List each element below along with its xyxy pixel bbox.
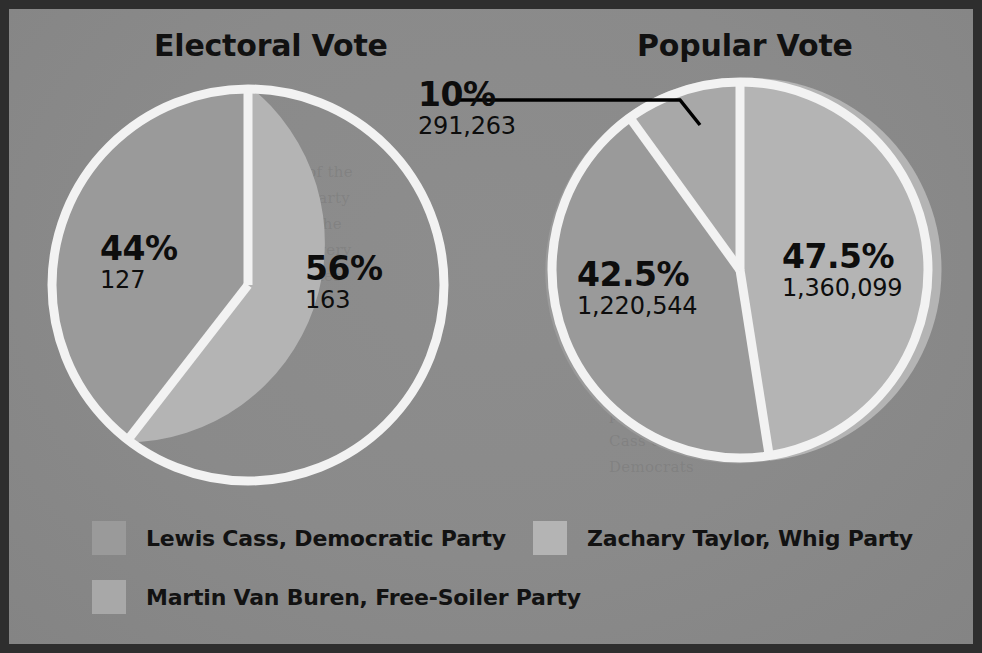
label-popular-taylor-percent: 47.5% (782, 240, 902, 274)
legend-swatch-taylor (533, 521, 567, 555)
label-popular-cass-count: 1,220,544 (577, 292, 697, 320)
legend-swatch-cass (92, 521, 126, 555)
label-popular-cass-percent: 42.5% (577, 258, 697, 292)
legend-item-vanburen[interactable]: Martin Van Buren, Free-Soiler Party (92, 580, 581, 614)
legend-label-vanburen: Martin Van Buren, Free-Soiler Party (146, 585, 581, 610)
legend-label-cass: Lewis Cass, Democratic Party (146, 526, 506, 551)
legend-item-cass[interactable]: Lewis Cass, Democratic Party (92, 521, 506, 555)
legend-swatch-vanburen (92, 580, 126, 614)
label-popular-vanburen: 10% 291,263 (418, 78, 516, 140)
legend-label-taylor: Zachary Taylor, Whig Party (587, 526, 913, 551)
legend-item-taylor[interactable]: Zachary Taylor, Whig Party (533, 521, 913, 555)
label-popular-cass: 42.5% 1,220,544 (577, 258, 697, 320)
label-popular-vanburen-count: 291,263 (418, 112, 516, 140)
infographic-root: the candidate of the new Free-Soil party… (0, 0, 982, 653)
label-popular-taylor-count: 1,360,099 (782, 274, 902, 302)
label-popular-vanburen-percent: 10% (418, 78, 516, 112)
label-popular-taylor: 47.5% 1,360,099 (782, 240, 902, 302)
